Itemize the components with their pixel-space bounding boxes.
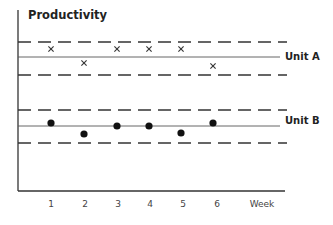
x-tick-labels: 1 2 3 4 5 6 bbox=[48, 199, 220, 209]
unit-a-point-x-icon bbox=[114, 46, 119, 51]
unit-a-label: Unit A bbox=[285, 51, 320, 62]
unit-a-point-x-icon bbox=[81, 60, 86, 65]
unit-a-markers bbox=[48, 46, 215, 68]
x-axis-title: Week bbox=[250, 199, 275, 209]
unit-a-point-x-icon bbox=[178, 46, 183, 51]
unit-a-point-x-icon bbox=[210, 63, 215, 68]
unit-b-markers bbox=[47, 119, 216, 137]
unit-b-point-dot-icon bbox=[145, 122, 152, 129]
unit-a-point-x-icon bbox=[48, 46, 53, 51]
x-tick-1: 1 bbox=[48, 199, 54, 209]
x-tick-4: 4 bbox=[147, 199, 153, 209]
unit-b-point-dot-icon bbox=[209, 119, 216, 126]
unit-b-point-dot-icon bbox=[113, 122, 120, 129]
unit-b-point-dot-icon bbox=[177, 129, 184, 136]
unit-b-point-dot-icon bbox=[80, 130, 87, 137]
unit-b-label: Unit B bbox=[285, 115, 320, 126]
x-tick-2: 2 bbox=[82, 199, 88, 209]
x-tick-3: 3 bbox=[115, 199, 121, 209]
control-chart: Productivity Unit A Unit B 1 2 3 4 5 6 W… bbox=[0, 0, 333, 225]
chart-title: Productivity bbox=[28, 8, 108, 22]
x-tick-5: 5 bbox=[180, 199, 186, 209]
unit-a-point-x-icon bbox=[146, 46, 151, 51]
unit-b-point-dot-icon bbox=[47, 119, 54, 126]
unit-a-band bbox=[18, 42, 287, 75]
x-tick-6: 6 bbox=[214, 199, 220, 209]
